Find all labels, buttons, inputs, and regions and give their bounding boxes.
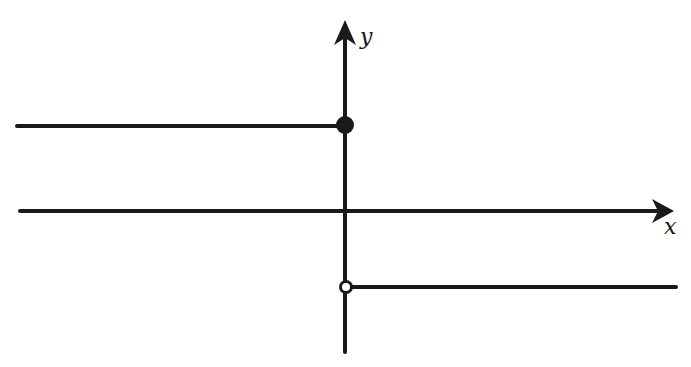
step-function-diagram: x y [0,0,691,367]
x-axis: x [20,199,677,239]
y-axis-label: y [359,24,373,49]
open-endpoint-circle-icon [341,282,352,293]
x-axis-label: x [664,214,677,239]
closed-endpoint-dot-icon [336,116,354,134]
y-axis: y [334,20,373,352]
